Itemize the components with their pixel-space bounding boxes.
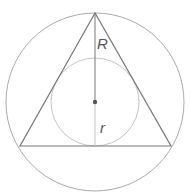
diagram-canvas: R r — [0, 0, 190, 196]
circumradius-label: R — [97, 35, 108, 52]
inradius-label: r — [100, 119, 106, 136]
center-point — [93, 100, 97, 104]
geometry-figure: R r — [0, 0, 190, 196]
